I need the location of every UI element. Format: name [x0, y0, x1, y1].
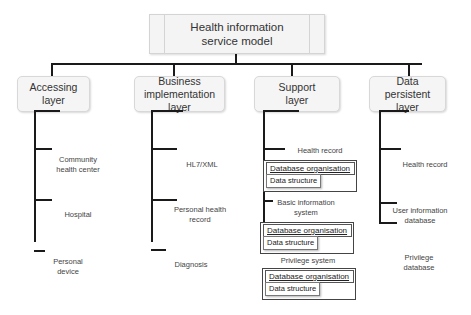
node-label: HL7/XML [186, 160, 217, 170]
node-label: Personal device [51, 257, 86, 277]
node-label: Health record [402, 160, 447, 170]
node-health-record-support: Health record [285, 144, 355, 158]
node-user-information-database: User information database [390, 201, 450, 231]
database-group-basic-information: Database organisation Data structure [260, 222, 354, 254]
data-trunk [379, 110, 381, 224]
layer-label: Business implementation layer [137, 75, 222, 114]
data-structure-label: Data structure [265, 282, 320, 296]
layer-business: Business implementation layer [134, 76, 225, 112]
node-label: Community health center [51, 155, 106, 175]
layer-bus [51, 63, 422, 65]
node-hospital: Hospital [46, 200, 110, 230]
node-label: User information database [392, 206, 448, 226]
support-branch-1 [263, 148, 285, 150]
node-community-health-center: Community health center [46, 150, 110, 180]
layer-data-persistent: Data persistent layer [369, 76, 446, 112]
node-label: Personal health record [173, 205, 228, 225]
node-privilege-system: Privilege system [268, 256, 348, 266]
layer-label: Support layer [272, 81, 322, 107]
node-label: Health record [297, 146, 342, 156]
node-health-record-data: Health record [396, 150, 454, 180]
business-trunk [151, 110, 153, 242]
accessing-stub [34, 110, 60, 112]
node-label: Hospital [64, 210, 91, 220]
data-structure-label: Data structure [266, 174, 321, 188]
node-hl7-xml: HL7/XML [172, 150, 232, 180]
layer-support: Support layer [254, 76, 340, 112]
layer-accessing: Accessing layer [17, 76, 90, 112]
layer-label: Accessing layer [26, 81, 81, 107]
data-structure-label: Data structure [263, 236, 318, 250]
node-personal-health-record: Personal health record [170, 200, 230, 230]
node-diagnosis: Diagnosis [163, 250, 219, 280]
node-label: Privilege database [399, 253, 439, 273]
node-privilege-database: Privilege database [392, 248, 446, 278]
node-label: Diagnosis [175, 260, 208, 270]
support-stub [263, 110, 299, 112]
node-label: Basic information system [276, 198, 336, 218]
connector-accessing [51, 63, 53, 76]
data-stub [379, 110, 409, 112]
accessing-trunk [34, 110, 36, 242]
layer-label: Data persistent layer [373, 75, 443, 114]
root-label: Health information service model [177, 20, 297, 48]
database-group-privilege: Database organisation Data structure [262, 268, 356, 300]
node-personal-device: Personal device [39, 252, 97, 282]
database-group-health-record: Database organisation Data structure [263, 160, 357, 192]
root-node: Health information service model [149, 14, 325, 54]
connector-support [291, 63, 293, 76]
node-basic-information-system: Basic information system [270, 196, 342, 220]
business-stub [151, 110, 183, 112]
